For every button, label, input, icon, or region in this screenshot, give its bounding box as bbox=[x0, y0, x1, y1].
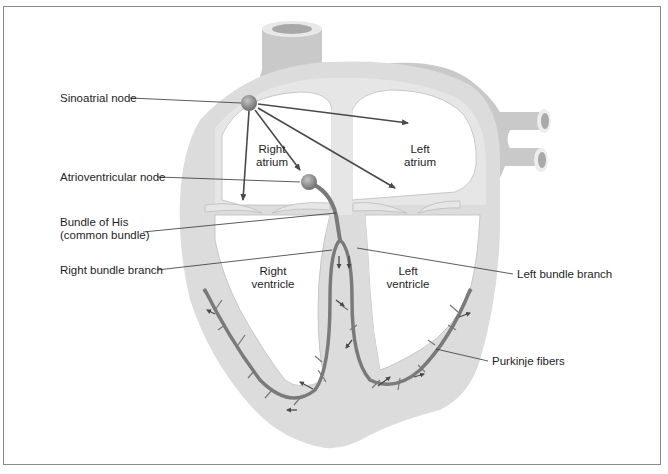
label-left-bundle-branch: Left bundle branch bbox=[517, 268, 612, 281]
label-atrioventricular-node: Atrioventricular node bbox=[60, 171, 165, 184]
label-right-ventricle-line2: ventricle bbox=[245, 278, 301, 291]
label-left-ventricle-line2: ventricle bbox=[380, 278, 436, 291]
label-right-atrium-line2: atrium bbox=[252, 156, 292, 169]
label-sinoatrial-node: Sinoatrial node bbox=[60, 92, 137, 105]
label-purkinje-fibers: Purkinje fibers bbox=[492, 355, 565, 368]
sinoatrial-node-shape bbox=[241, 95, 257, 111]
label-left-atrium-line1: Left bbox=[400, 143, 440, 156]
label-right-atrium: Right atrium bbox=[252, 143, 292, 169]
label-left-atrium-line2: atrium bbox=[400, 156, 440, 169]
label-right-atrium-line1: Right bbox=[252, 143, 292, 156]
label-bundle-of-his: Bundle of His bbox=[60, 216, 128, 229]
label-left-atrium: Left atrium bbox=[400, 143, 440, 169]
atrioventricular-node-shape bbox=[301, 174, 317, 190]
label-left-ventricle: Left ventricle bbox=[380, 265, 436, 291]
label-right-ventricle: Right ventricle bbox=[245, 265, 301, 291]
label-left-ventricle-line1: Left bbox=[380, 265, 436, 278]
label-bundle-of-his-sub: (common bundle) bbox=[60, 229, 149, 242]
label-right-ventricle-line1: Right bbox=[245, 265, 301, 278]
label-right-bundle-branch: Right bundle branch bbox=[60, 264, 163, 277]
